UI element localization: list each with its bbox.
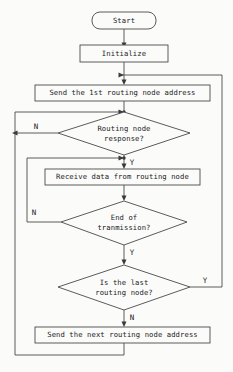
node-send-next-label: Send the next routing node address xyxy=(47,330,198,339)
branch-label-transmission-no: N xyxy=(32,208,36,217)
branch-label-transmission-yes: Y xyxy=(130,248,135,257)
arrowhead-receive-in xyxy=(122,164,127,170)
arrowhead-send-next-in xyxy=(122,322,127,328)
node-send-first-label: Send the 1st routing node address xyxy=(49,88,195,97)
arrowhead-transmission-in xyxy=(122,196,127,202)
flowchart-canvas: Start Initialize Send the 1st routing no… xyxy=(0,0,233,372)
node-routing-node-response-line2: response? xyxy=(104,134,144,143)
node-end-of-transmission-line1: End of xyxy=(111,213,138,222)
branch-label-response-no: N xyxy=(34,122,38,131)
arrowhead-transmission-no-return xyxy=(119,156,125,161)
arrowhead-last-node-in xyxy=(122,260,127,266)
connector-send-next-return-loop xyxy=(15,133,124,355)
branch-label-last-node-yes: Y xyxy=(203,276,208,285)
arrowhead-send-first-in xyxy=(122,80,127,86)
node-start-label: Start xyxy=(113,16,135,25)
node-receive-data-label: Receive data from routing node xyxy=(56,172,189,181)
node-is-last-routing-node-line2: routing node? xyxy=(95,288,153,297)
flowchart-svg: Start Initialize Send the 1st routing no… xyxy=(0,0,233,372)
node-routing-node-response-line1: Routing node xyxy=(97,124,150,133)
node-end-of-transmission-line2: tranmission? xyxy=(97,223,150,232)
branch-label-response-yes: Y xyxy=(130,158,135,167)
node-initialize-label: Initialize xyxy=(102,49,146,58)
branch-label-last-node-no: N xyxy=(130,313,134,322)
node-is-last-routing-node-line1: Is the last xyxy=(100,278,149,287)
